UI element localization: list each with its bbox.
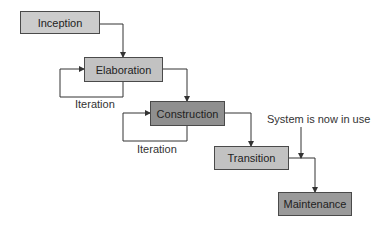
phase-label: Construction (157, 108, 219, 120)
phase-label: Inception (38, 17, 83, 29)
arrow-construction-transition (225, 113, 251, 146)
annotation-system-in-use: System is now in use (267, 113, 370, 125)
phase-inception: Inception (20, 11, 100, 34)
phase-label: Transition (228, 152, 276, 164)
iteration-label-construction: Iteration (137, 143, 177, 155)
arrow-elaboration-construction (163, 69, 187, 101)
phase-elaboration: Elaboration (84, 57, 163, 82)
phase-label: Elaboration (96, 64, 152, 76)
waterfall-diagram: Inception Elaboration Construction Trans… (0, 0, 372, 230)
phase-maintenance: Maintenance (278, 192, 352, 216)
phase-transition: Transition (214, 146, 289, 170)
phase-construction: Construction (150, 101, 225, 126)
arrow-transition-maintenance (289, 158, 315, 192)
iteration-label-elaboration: Iteration (75, 98, 115, 110)
arrow-inception-elaboration (100, 24, 123, 57)
phase-label: Maintenance (284, 198, 347, 210)
